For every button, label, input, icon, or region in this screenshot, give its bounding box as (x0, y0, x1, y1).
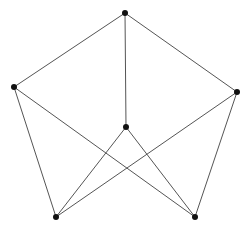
edges-layer (14, 13, 237, 217)
node-right (234, 89, 240, 95)
node-left (11, 84, 17, 90)
edge-top-center (125, 13, 126, 127)
edge-center-bottom-left (56, 127, 126, 217)
edge-top-right (125, 13, 237, 92)
edge-left-bottom-left (14, 87, 56, 217)
edge-top-left (14, 13, 125, 87)
node-bottom-right (192, 214, 198, 220)
edge-center-bottom-right (126, 127, 195, 217)
node-top (122, 10, 128, 16)
graph-diagram (0, 0, 251, 228)
node-bottom-left (53, 214, 59, 220)
node-center (123, 124, 129, 130)
edge-right-bottom-right (195, 92, 237, 217)
edge-left-bottom-right (14, 87, 195, 217)
